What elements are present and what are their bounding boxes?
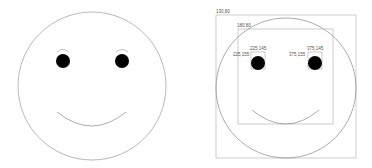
left-eye-top-label: 225,145 bbox=[250, 46, 267, 51]
face-outline bbox=[18, 12, 166, 160]
right-eye bbox=[115, 54, 129, 68]
inner-bounding-box bbox=[238, 29, 333, 124]
right-eye-top-label: 375,145 bbox=[307, 46, 324, 51]
left-eye-side-label: 225,155 bbox=[233, 52, 250, 57]
left-smiley-face bbox=[18, 12, 166, 160]
right-annotated-face: 130,80 180,80 225,145 225,155 375,145 37… bbox=[216, 9, 356, 158]
left-eye bbox=[56, 54, 70, 68]
smile bbox=[252, 110, 319, 124]
left-eyebrow bbox=[57, 50, 69, 53]
outer-bounding-box bbox=[216, 15, 356, 158]
right-eyebrow bbox=[116, 50, 128, 53]
diagram-canvas: 130,80 180,80 225,145 225,155 375,145 37… bbox=[0, 0, 372, 168]
left-eye bbox=[251, 56, 265, 70]
inner-box-label: 180,80 bbox=[237, 23, 251, 28]
smile bbox=[57, 112, 126, 126]
outer-box-label: 130,80 bbox=[216, 9, 230, 14]
right-eye-side-label: 375,155 bbox=[289, 52, 306, 57]
right-eye bbox=[308, 56, 322, 70]
face-outline bbox=[216, 18, 356, 158]
